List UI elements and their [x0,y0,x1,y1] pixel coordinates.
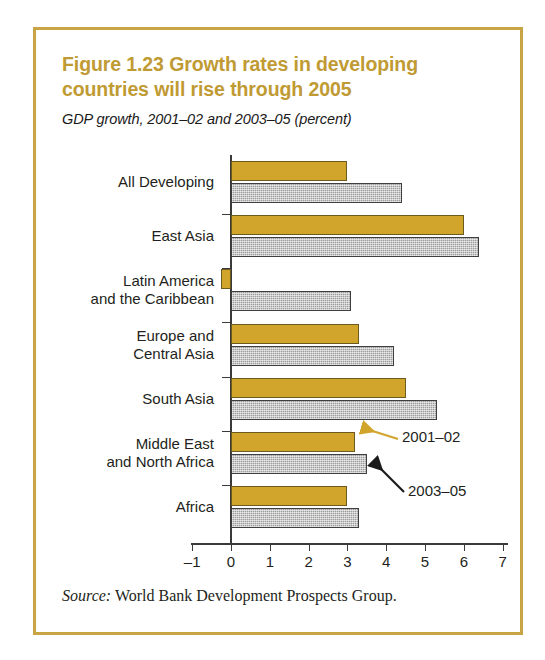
bar-2001-02-3 [231,324,359,344]
chart-plot-area: –101234567 All DevelopingEast AsiaLatin … [36,30,526,638]
source-value: World Bank Development Prospects Group. [111,587,396,604]
y-tick-3 [222,377,231,378]
x-tick-3 [309,543,310,551]
annotation-label-2003-05: 2003–05 [408,482,466,499]
x-tick-label-8: 7 [488,553,518,570]
bar-2001-02-2 [221,269,231,289]
category-label-0: All Developing [34,173,214,191]
x-tick-2 [270,543,271,551]
x-axis-line [191,543,508,545]
category-label-1: East Asia [34,227,214,245]
bar-2003-05-1 [231,237,479,257]
bar-2003-05-4 [231,400,437,420]
bar-2001-02-0 [231,161,347,181]
bar-2003-05-0 [231,183,402,203]
y-tick-4 [222,431,231,432]
category-label-4: South Asia [34,390,214,408]
x-tick-label-5: 4 [371,553,401,570]
x-tick-label-2: 1 [255,553,285,570]
bar-2003-05-2 [231,291,351,311]
arrow-2001-02 [363,428,398,439]
x-tick-label-0: –1 [177,553,207,570]
bar-2003-05-3 [231,346,394,366]
bar-2001-02-5 [231,432,355,452]
x-tick-1 [231,543,232,551]
x-tick-7 [464,543,465,551]
x-tick-6 [425,543,426,551]
bar-2001-02-4 [231,378,406,398]
arrow-2003-05 [374,462,404,492]
y-tick-2 [222,322,231,323]
bar-2001-02-6 [231,486,347,506]
category-label-5: Middle Eastand North Africa [34,435,214,471]
bar-2003-05-5 [231,454,367,474]
y-tick-0 [222,214,231,215]
bar-2001-02-1 [231,215,464,235]
source-note: Source: World Bank Development Prospects… [62,587,397,605]
category-label-3: Europe andCentral Asia [34,327,214,363]
y-tick-5 [222,485,231,486]
figure-frame: Figure 1.23 Growth rates in developing c… [33,27,523,635]
x-tick-8 [503,543,504,551]
x-tick-label-4: 3 [332,553,362,570]
x-tick-0 [192,543,193,551]
annotation-label-2001-02: 2001–02 [402,428,460,445]
x-tick-5 [386,543,387,551]
category-label-6: Africa [34,498,214,516]
x-tick-label-6: 5 [410,553,440,570]
category-label-2: Latin Americaand the Caribbean [34,272,214,308]
x-tick-label-7: 6 [449,553,479,570]
x-tick-label-3: 2 [294,553,324,570]
x-tick-4 [347,543,348,551]
source-label: Source: [62,587,111,604]
bar-2003-05-6 [231,508,359,528]
x-tick-label-1: 0 [216,553,246,570]
